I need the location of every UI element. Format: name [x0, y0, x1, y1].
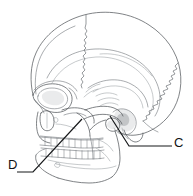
zygomatic-bone-inner: [64, 113, 86, 116]
leader-lines-group: [17, 116, 172, 172]
squamous-suture: [88, 80, 148, 107]
coronoid-process: [77, 113, 90, 136]
mandible-body-detail: [48, 160, 90, 165]
temporal-fossa-detail-3: [100, 103, 118, 106]
parietal-eminence: [100, 54, 152, 76]
maxilla: [37, 112, 51, 143]
temporal-fossa-detail-1: [96, 93, 117, 96]
coronal-suture: [81, 15, 87, 88]
temporal-squama-inner: [93, 86, 143, 108]
upper-teeth-band-bottom: [40, 145, 103, 148]
skull-illustration: [0, 0, 193, 196]
label-d: D: [8, 158, 17, 171]
temporal-fossa-detail-2: [98, 98, 119, 101]
skull-diagram-figure: C D: [0, 0, 193, 196]
lower-teeth-band-bottom: [41, 156, 104, 159]
supraorbital-ridge: [34, 81, 77, 91]
label-c: C: [174, 136, 183, 149]
facial-skeleton-group: [33, 81, 123, 143]
orbit-shading: [42, 91, 64, 106]
mandibular-ramus-anterior: [90, 136, 93, 159]
mastoid-process: [124, 130, 143, 142]
ramus-detail-1: [99, 140, 113, 151]
mandibular-ramus-posterior: [112, 131, 120, 177]
dentition-group: [40, 137, 104, 159]
temporal-region-group: [84, 84, 143, 142]
zygomatic-bone: [62, 108, 94, 123]
mandibular-angle: [58, 177, 112, 183]
mandibular-notch: [90, 120, 106, 130]
mandibular-body-outline: [36, 149, 45, 155]
mandibular-body-inferior: [36, 155, 58, 178]
lower-teeth-band-top: [41, 148, 104, 151]
